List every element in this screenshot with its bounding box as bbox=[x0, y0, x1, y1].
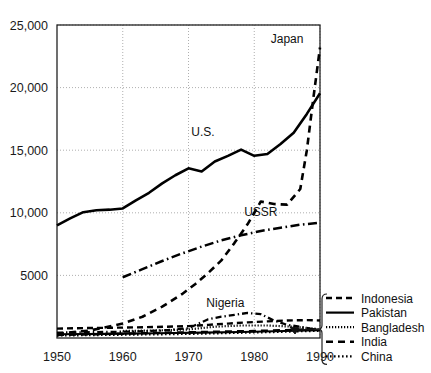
y-tick-label: 10,000 bbox=[10, 206, 48, 220]
x-axis-tick-labels: 19501960197019801990 bbox=[43, 350, 334, 364]
x-tick-label: 1990 bbox=[306, 350, 334, 364]
chart-figure: 500010,00015,00020,00025,000 19501960197… bbox=[0, 0, 431, 373]
legend-label-india: India bbox=[361, 335, 387, 349]
legend-label-bangladesh: Bangladesh bbox=[361, 321, 424, 335]
x-tick-label: 1980 bbox=[240, 350, 268, 364]
y-axis-tick-labels: 500010,00015,00020,00025,000 bbox=[10, 19, 48, 283]
legend-label-china: China bbox=[361, 350, 393, 364]
series-annotations: JapanU.S.USSRNigeria bbox=[191, 32, 303, 311]
legend-arrow-shaft bbox=[298, 329, 314, 330]
annotation-ussr: USSR bbox=[244, 205, 278, 219]
y-tick-label: 5000 bbox=[20, 269, 48, 283]
x-tick-label: 1960 bbox=[109, 350, 137, 364]
legend-label-pakistan: Pakistan bbox=[361, 306, 407, 320]
legend-label-indonesia: Indonesia bbox=[361, 292, 413, 306]
x-tick-label: 1970 bbox=[175, 350, 203, 364]
y-tick-label: 25,000 bbox=[10, 19, 48, 33]
series-line-indonesia bbox=[57, 320, 320, 329]
y-tick-label: 20,000 bbox=[10, 81, 48, 95]
annotation-u-s: U.S. bbox=[191, 125, 214, 139]
annotation-japan: Japan bbox=[271, 32, 304, 46]
y-tick-label: 15,000 bbox=[10, 144, 48, 158]
x-tick-label: 1950 bbox=[43, 350, 71, 364]
gridlines bbox=[57, 25, 320, 338]
series-line-ussr bbox=[123, 223, 320, 277]
line-chart: 500010,00015,00020,00025,000 19501960197… bbox=[0, 0, 431, 373]
annotation-nigeria: Nigeria bbox=[206, 296, 244, 310]
